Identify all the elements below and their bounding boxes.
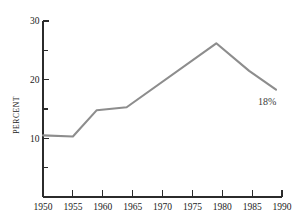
chart-container: 302010 195019551960196519701975198019851… xyxy=(0,0,304,223)
line-chart: 302010 195019551960196519701975198019851… xyxy=(0,0,304,223)
y-tick-label: 20 xyxy=(30,75,40,85)
y-tick-label: 10 xyxy=(30,134,40,144)
annotation-layer: 18% xyxy=(258,96,276,107)
x-tick-label: 1975 xyxy=(183,202,202,212)
y-axis-title: PERCENT xyxy=(12,96,21,134)
chart-background xyxy=(0,0,304,223)
x-tick-label: 1970 xyxy=(153,202,172,212)
x-tick-label: 1985 xyxy=(243,202,262,212)
x-tick-label: 1955 xyxy=(63,202,82,212)
x-tick-label: 1950 xyxy=(34,202,53,212)
x-tick-label: 1965 xyxy=(123,202,142,212)
series-value-annotation: 18% xyxy=(258,96,276,107)
x-tick-label: 1980 xyxy=(213,202,232,212)
y-tick-label: 30 xyxy=(30,16,40,26)
x-tick-label: 1990 xyxy=(273,202,292,212)
x-tick-label: 1960 xyxy=(93,202,112,212)
